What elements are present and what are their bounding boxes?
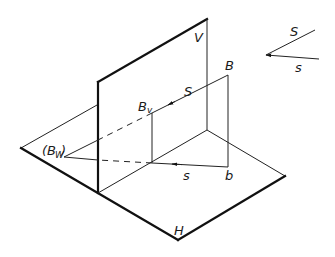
hidden-upper-ray	[98, 113, 152, 140]
s-lower-arrow	[172, 164, 182, 165]
legend-s-lower-arrow	[266, 55, 319, 59]
label-point-bv: B	[138, 99, 147, 114]
h-plane-back-right-edge	[207, 130, 285, 176]
horizontal-plane-h	[21, 105, 285, 240]
label-v-plane: V	[194, 30, 204, 45]
label-s-lower: s	[183, 168, 190, 183]
s-ray-arrow	[168, 102, 175, 106]
s-ray-b-to-foot	[152, 163, 228, 167]
legend-label-s-lower: s	[295, 60, 302, 75]
label-point-b-lower: b	[225, 168, 233, 183]
label-point-bw: (B	[42, 143, 56, 158]
vertical-plane-v	[98, 19, 207, 193]
label-point-bv-subscript: v	[147, 105, 153, 115]
projection-construction	[64, 75, 228, 167]
h-plane-front-left-edge	[21, 148, 178, 240]
label-s-ray: S	[184, 84, 192, 99]
label-point-b: B	[225, 58, 234, 73]
projection-diagram: V H B b B v (B W ) S s S s	[0, 0, 335, 257]
h-plane-front-right-edge	[178, 176, 285, 240]
legend-label-s-upper: S	[290, 24, 298, 39]
h-plane-back-left-edge	[21, 105, 97, 148]
upper-ray-to-bw	[64, 140, 98, 157]
lower-ray-to-bw	[64, 157, 98, 160]
label-h-plane: H	[174, 223, 184, 238]
v-plane-top-edge	[98, 19, 207, 82]
hidden-lower-ray	[98, 160, 152, 163]
label-point-bw-close: )	[60, 143, 66, 158]
